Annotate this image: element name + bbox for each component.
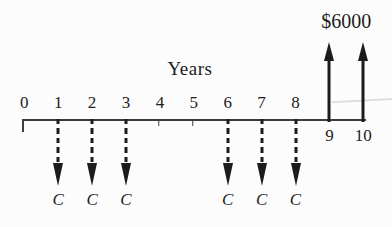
cost-arrowhead-icon bbox=[53, 163, 63, 186]
cost-arrow-shaft bbox=[57, 119, 60, 164]
cost-arrowhead-icon bbox=[291, 163, 301, 186]
receipt-amount-label: $6000 bbox=[321, 11, 371, 31]
year-label: 0 bbox=[20, 94, 29, 111]
cost-arrowhead-icon bbox=[87, 163, 97, 186]
cost-arrow-shaft bbox=[91, 119, 94, 164]
cost-value-label: C bbox=[53, 191, 64, 208]
cost-value-label: C bbox=[120, 191, 131, 208]
year-label: 6 bbox=[223, 94, 232, 111]
cost-arrow-shaft bbox=[226, 119, 229, 164]
cost-arrowhead-icon bbox=[257, 163, 267, 186]
receipt-arrow-shaft bbox=[362, 58, 365, 122]
axis-tick bbox=[158, 119, 160, 126]
axis-tick bbox=[22, 119, 24, 132]
cost-arrow-shaft bbox=[260, 119, 263, 164]
year-label: 10 bbox=[355, 127, 372, 144]
year-label: 5 bbox=[190, 94, 199, 111]
year-label: 3 bbox=[122, 94, 131, 111]
cash-flow-diagram: 012345678910YearsCCCCCC$6000 bbox=[0, 0, 392, 227]
receipt-arrow-shaft bbox=[328, 58, 331, 122]
year-label: 2 bbox=[88, 94, 97, 111]
year-label: 9 bbox=[325, 127, 334, 144]
cost-value-label: C bbox=[290, 191, 301, 208]
year-label: 1 bbox=[54, 94, 63, 111]
axis-tick bbox=[192, 119, 194, 126]
cost-arrow-shaft bbox=[294, 119, 297, 164]
cost-value-label: C bbox=[222, 191, 233, 208]
cost-value-label: C bbox=[256, 191, 267, 208]
year-label: 4 bbox=[156, 94, 165, 111]
year-label: 8 bbox=[291, 94, 300, 111]
axis-title: Years bbox=[168, 59, 213, 78]
cost-value-label: C bbox=[86, 191, 97, 208]
timeline-axis bbox=[22, 119, 366, 121]
receipt-arrowhead-icon bbox=[324, 42, 334, 61]
year-label: 7 bbox=[257, 94, 266, 111]
cost-arrowhead-icon bbox=[223, 163, 233, 186]
receipt-arrowhead-icon bbox=[358, 42, 368, 61]
cost-arrow-shaft bbox=[125, 119, 128, 164]
cost-arrowhead-icon bbox=[121, 163, 131, 186]
